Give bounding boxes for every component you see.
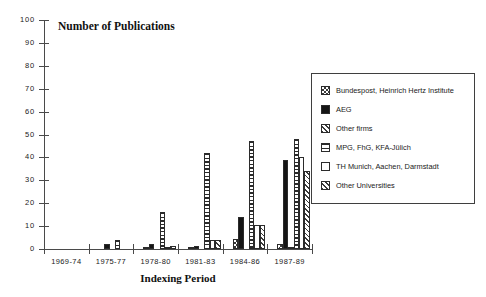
legend-item[interactable]: Other firms — [321, 121, 467, 137]
bar — [260, 225, 265, 249]
bar — [194, 246, 199, 249]
legend-item-label: MPG, FhG, KFA-Jülich — [336, 144, 411, 151]
bar — [215, 240, 220, 249]
bar — [283, 160, 288, 249]
legend: Bundespost, Heinrich Hertz InstituteAEGO… — [311, 73, 475, 204]
legend-item-label: Other firms — [336, 125, 373, 132]
legend-item[interactable]: MPG, FhG, KFA-Jülich — [321, 140, 467, 156]
bar — [238, 217, 243, 249]
legend-swatch-icon — [321, 181, 330, 190]
legend-swatch-icon — [321, 162, 330, 171]
bar — [304, 171, 309, 249]
legend-item-label: AEG — [336, 106, 352, 113]
legend-item[interactable]: AEG — [321, 102, 467, 118]
legend-item[interactable]: Bundespost, Heinrich Hertz Institute — [321, 83, 467, 99]
x-tick-label: 1987-89 — [249, 258, 330, 266]
legend-swatch-icon — [321, 105, 330, 114]
legend-swatch-icon — [321, 143, 330, 152]
legend-item[interactable]: Other Universities — [321, 178, 467, 194]
bar — [170, 246, 175, 249]
bar — [104, 244, 109, 249]
legend-item-label: Other Universities — [336, 182, 395, 189]
legend-swatch-icon — [321, 124, 330, 133]
publications-bar-chart: Number of Publications 01020304050607080… — [0, 0, 486, 297]
bar — [115, 240, 120, 249]
x-axis-title: Indexing Period — [0, 272, 356, 284]
bar — [149, 244, 154, 249]
bar — [160, 212, 165, 249]
legend-item[interactable]: TH Munich, Aachen, Darmstadt — [321, 159, 467, 175]
legend-swatch-icon — [321, 86, 330, 95]
bar — [204, 153, 209, 249]
legend-item-label: TH Munich, Aachen, Darmstadt — [336, 163, 439, 170]
legend-item-label: Bundespost, Heinrich Hertz Institute — [336, 87, 454, 94]
